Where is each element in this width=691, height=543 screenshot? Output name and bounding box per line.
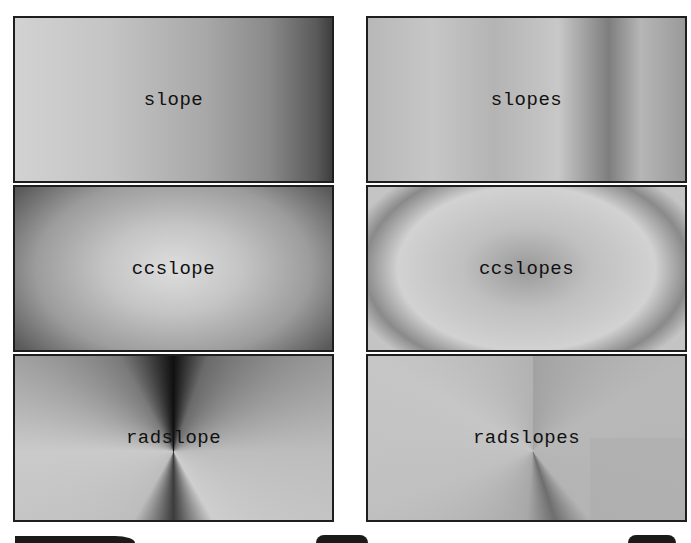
heading-glyph-fragment — [15, 536, 135, 543]
heading-glyph-fragment — [628, 535, 676, 543]
panel-slope: slope — [13, 16, 334, 183]
panel-slopes: slopes — [366, 16, 687, 183]
panel-ccslopes: ccslopes — [366, 185, 687, 352]
panel-label: radslope — [126, 427, 221, 449]
panel-radslopes: radslopes — [366, 354, 687, 522]
panel-label: ccslope — [132, 258, 215, 280]
panel-radslope: radslope — [13, 354, 334, 522]
panel-ccslope: ccslope — [13, 185, 334, 352]
panel-label: slope — [144, 89, 204, 111]
panel-label: slopes — [491, 89, 562, 111]
panel-label: ccslopes — [479, 258, 574, 280]
panel-label: radslopes — [473, 427, 580, 449]
heading-glyph-fragment — [358, 538, 364, 543]
